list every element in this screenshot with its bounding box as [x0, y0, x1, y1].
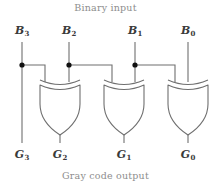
wire-b2-to-xor-g1	[69, 65, 112, 82]
output-label-g0: G0	[181, 148, 195, 161]
circuit-diagram	[0, 0, 211, 190]
output-label-g1: G1	[117, 148, 131, 161]
xor-gate-g1	[104, 80, 144, 143]
xor-gate-g0	[168, 80, 208, 143]
output-label-g2-sub: 2	[63, 153, 68, 162]
output-label-g3-sub: 3	[25, 153, 30, 162]
output-label-g3-base: G	[15, 148, 24, 161]
output-label-g1-base: G	[117, 148, 126, 161]
binary-to-gray-code-converter-figure: Binary input	[0, 0, 211, 190]
input-label-b1-base: B	[128, 24, 137, 37]
wire-b3-to-xor-g2	[22, 65, 45, 82]
input-label-b3-sub: 3	[25, 29, 30, 38]
xor-gate-g2	[40, 80, 80, 143]
figure-caption-bottom: Gray code output	[0, 170, 211, 181]
input-label-b1: B1	[128, 24, 142, 37]
input-label-b0-sub: 0	[191, 29, 196, 38]
wire-b1-to-xor-g0	[135, 65, 175, 82]
input-label-b3: B3	[15, 24, 29, 37]
xor-gate-g2-body	[40, 85, 80, 135]
input-label-b2-sub: 2	[72, 29, 77, 38]
input-label-b1-sub: 1	[138, 29, 143, 38]
xor-gate-g1-outer-arc	[104, 80, 144, 85]
input-label-b0: B0	[181, 24, 195, 37]
output-label-g2: G2	[53, 148, 67, 161]
junction-b1	[132, 62, 137, 67]
input-label-b2-base: B	[62, 24, 71, 37]
junction-b3	[19, 62, 24, 67]
input-label-b0-base: B	[181, 24, 190, 37]
output-label-g3: G3	[15, 148, 29, 161]
xor-gate-g1-body	[104, 85, 144, 135]
output-label-g0-sub: 0	[191, 153, 196, 162]
xor-gate-g0-body	[168, 85, 208, 135]
xor-gate-g2-outer-arc	[40, 80, 80, 85]
output-label-g2-base: G	[53, 148, 62, 161]
output-label-g1-sub: 1	[127, 153, 132, 162]
junction-b2	[66, 62, 71, 67]
input-label-b3-base: B	[15, 24, 24, 37]
input-label-b2: B2	[62, 24, 76, 37]
output-label-g0-base: G	[181, 148, 190, 161]
